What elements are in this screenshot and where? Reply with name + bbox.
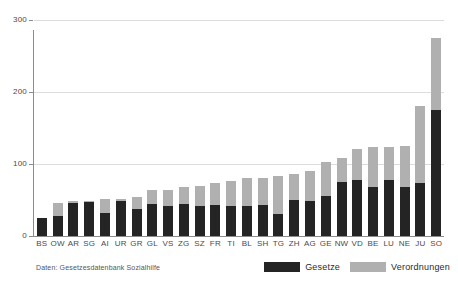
y-tick-mark-300 bbox=[29, 20, 33, 21]
bar-segment-verordnungen bbox=[210, 183, 220, 205]
bar-bl bbox=[242, 178, 252, 236]
bar-segment-gesetze bbox=[273, 214, 283, 236]
bar-segment-gesetze bbox=[132, 209, 142, 236]
bar-segment-verordnungen bbox=[132, 197, 142, 209]
legend-label-gesetze: Gesetze bbox=[305, 262, 340, 272]
bar-segment-verordnungen bbox=[258, 178, 268, 205]
legend-item-verordnungen: Verordnungen bbox=[350, 262, 450, 272]
bar-segment-verordnungen bbox=[147, 190, 157, 204]
bar-segment-verordnungen bbox=[163, 190, 173, 206]
bar-zg bbox=[179, 187, 189, 236]
source-note: Daten: Gesetzesdatenbank Sozialhilfe bbox=[36, 264, 160, 271]
bar-segment-gesetze bbox=[68, 203, 78, 236]
x-label-so: SO bbox=[426, 239, 446, 249]
bar-segment-verordnungen bbox=[289, 174, 299, 200]
y-tick-mark-100 bbox=[29, 164, 33, 165]
bar-segment-gesetze bbox=[116, 201, 126, 236]
bar-sg bbox=[84, 201, 94, 236]
bar-vd bbox=[352, 149, 362, 236]
bar-vs bbox=[163, 190, 173, 236]
bar-ge bbox=[321, 162, 331, 236]
bar-gr bbox=[132, 197, 142, 236]
bar-segment-gesetze bbox=[415, 183, 425, 236]
bar-segment-gesetze bbox=[179, 204, 189, 236]
bar-segment-verordnungen bbox=[400, 146, 410, 187]
bar-segment-gesetze bbox=[147, 204, 157, 236]
bar-segment-verordnungen bbox=[242, 178, 252, 205]
legend-swatch-verordnungen bbox=[350, 262, 386, 272]
bar-zh bbox=[289, 174, 299, 236]
bar-tg bbox=[273, 176, 283, 236]
bar-ti bbox=[226, 181, 236, 236]
bar-ne bbox=[400, 146, 410, 236]
bar-lu bbox=[384, 147, 394, 236]
bar-so bbox=[431, 38, 441, 236]
bar-segment-gesetze bbox=[226, 206, 236, 236]
bar-segment-gesetze bbox=[195, 206, 205, 236]
bar-segment-verordnungen bbox=[384, 147, 394, 180]
bar-ag bbox=[305, 171, 315, 236]
gridline-0 bbox=[34, 236, 444, 237]
y-tick-300: 300 bbox=[0, 16, 27, 24]
bar-bs bbox=[37, 218, 47, 236]
y-tick-label-100: 100 bbox=[3, 160, 27, 168]
y-tick-mark-200 bbox=[29, 92, 33, 93]
bar-ju bbox=[415, 106, 425, 236]
y-tick-mark-0 bbox=[29, 236, 33, 237]
chart-footer: Daten: Gesetzesdatenbank Sozialhilfe Ges… bbox=[0, 262, 458, 282]
bar-nw bbox=[337, 158, 347, 236]
bar-segment-verordnungen bbox=[195, 186, 205, 207]
bar-segment-verordnungen bbox=[352, 149, 362, 180]
bar-segment-gesetze bbox=[352, 180, 362, 236]
bar-segment-verordnungen bbox=[226, 181, 236, 206]
bar-segment-verordnungen bbox=[368, 147, 378, 187]
bar-ai bbox=[100, 199, 110, 236]
y-tick-0: 0 bbox=[0, 232, 27, 240]
x-axis-labels: BSOWARSGAIURGRGLVSZGSZFRTIBLSHTGZHAGGENW… bbox=[34, 239, 444, 251]
bar-segment-gesetze bbox=[431, 110, 441, 236]
bar-fr bbox=[210, 183, 220, 236]
legend-item-gesetze: Gesetze bbox=[264, 262, 340, 272]
y-tick-200: 200 bbox=[0, 88, 27, 96]
bar-segment-verordnungen bbox=[337, 158, 347, 182]
bar-segment-gesetze bbox=[53, 216, 63, 236]
bar-segment-gesetze bbox=[337, 182, 347, 236]
bar-segment-gesetze bbox=[210, 205, 220, 236]
bar-segment-verordnungen bbox=[321, 162, 331, 196]
bar-ur bbox=[116, 199, 126, 236]
bar-segment-verordnungen bbox=[100, 199, 110, 213]
bar-segment-gesetze bbox=[84, 202, 94, 236]
bar-segment-gesetze bbox=[100, 213, 110, 236]
bar-segment-gesetze bbox=[400, 187, 410, 236]
bar-be bbox=[368, 147, 378, 236]
bar-segment-gesetze bbox=[258, 205, 268, 236]
bar-segment-gesetze bbox=[384, 180, 394, 236]
y-tick-label-300: 300 bbox=[3, 16, 27, 24]
bar-ow bbox=[53, 203, 63, 236]
chart-legend: Gesetze Verordnungen bbox=[264, 262, 450, 272]
bar-segment-gesetze bbox=[163, 206, 173, 236]
y-tick-label-0: 0 bbox=[3, 232, 27, 240]
bar-sz bbox=[195, 186, 205, 236]
bar-sh bbox=[258, 178, 268, 236]
bar-segment-verordnungen bbox=[273, 176, 283, 215]
bar-gl bbox=[147, 190, 157, 236]
bar-segment-gesetze bbox=[289, 200, 299, 236]
bar-segment-verordnungen bbox=[53, 203, 63, 216]
y-tick-label-200: 200 bbox=[3, 88, 27, 96]
bar-segment-verordnungen bbox=[415, 106, 425, 183]
chart-figure: 0100200300 BSOWARSGAIURGRGLVSZGSZFRTIBLS… bbox=[0, 0, 458, 295]
bar-segment-gesetze bbox=[305, 201, 315, 236]
y-tick-100: 100 bbox=[0, 160, 27, 168]
bar-segment-verordnungen bbox=[305, 171, 315, 201]
bar-segment-gesetze bbox=[37, 218, 47, 236]
bar-segment-gesetze bbox=[321, 196, 331, 236]
bar-ar bbox=[68, 201, 78, 236]
bar-segment-gesetze bbox=[242, 206, 252, 236]
legend-swatch-gesetze bbox=[264, 262, 300, 272]
legend-label-verordnungen: Verordnungen bbox=[391, 262, 450, 272]
bar-segment-gesetze bbox=[368, 187, 378, 236]
bar-series-container bbox=[34, 20, 444, 236]
bar-segment-verordnungen bbox=[431, 38, 441, 110]
bar-segment-verordnungen bbox=[179, 187, 189, 204]
